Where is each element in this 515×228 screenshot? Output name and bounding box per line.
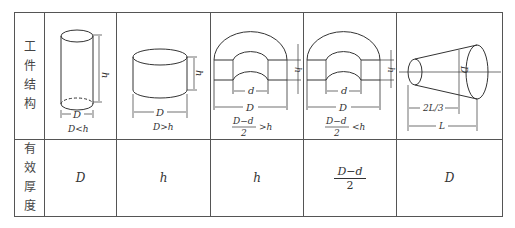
diagram-tall-cylinder: h D D<h — [45, 13, 117, 140]
thickness-value-fraction: D−d 2 — [304, 140, 397, 217]
row-header-thickness: 有 效 厚 度 — [15, 140, 45, 217]
svg-text:L: L — [438, 121, 445, 131]
truncated-cone-icon: D 2L/3 L — [398, 14, 502, 138]
diagram-truncated-cone: D 2L/3 L — [397, 13, 503, 140]
svg-text:D: D — [155, 107, 164, 118]
svg-text:h: h — [100, 72, 111, 78]
svg-text:d: d — [248, 85, 254, 96]
svg-text:h: h — [386, 67, 396, 73]
svg-text:D: D — [72, 109, 81, 120]
tall-cylinder-icon: h D D<h — [46, 14, 116, 138]
effective-thickness-table: 工 件 结 构 h D D<h — [14, 12, 503, 217]
header-char: 结 — [15, 76, 44, 95]
svg-text:D−d: D−d — [325, 116, 347, 126]
ring-section-icon: h d D D−d 2 <h — [304, 14, 396, 138]
svg-text:>h: >h — [259, 122, 272, 132]
svg-text:D: D — [338, 102, 347, 113]
header-char: 度 — [15, 197, 44, 216]
diagram-ring-lt: h d D D−d 2 <h — [304, 13, 397, 140]
svg-text:D: D — [245, 102, 254, 113]
svg-text:h: h — [194, 70, 205, 76]
svg-text:2: 2 — [240, 128, 247, 138]
svg-text:D>h: D>h — [152, 122, 174, 132]
svg-text:2: 2 — [333, 128, 340, 138]
svg-text:d: d — [341, 85, 347, 96]
fraction: D−d 2 — [334, 165, 365, 192]
header-char: 件 — [15, 57, 44, 76]
fraction-numerator: D−d — [334, 165, 365, 179]
thickness-value: D — [397, 140, 503, 217]
short-cylinder-icon: h D D>h — [118, 14, 210, 138]
header-char: 效 — [15, 159, 44, 178]
svg-text:<h: <h — [352, 122, 365, 132]
fraction-denominator: 2 — [334, 179, 365, 192]
svg-text:D: D — [459, 65, 469, 73]
svg-text:2L/3: 2L/3 — [422, 103, 444, 113]
thickness-value: h — [211, 140, 304, 217]
header-char: 有 — [15, 140, 44, 159]
header-char: 构 — [15, 95, 44, 114]
diagram-short-cylinder: h D D>h — [117, 13, 211, 140]
header-char: 厚 — [15, 178, 44, 197]
diagram-ring-gt: h d D D−d 2 >h — [211, 13, 304, 140]
header-char: 工 — [15, 38, 44, 57]
structure-row: 工 件 结 构 h D D<h — [15, 13, 503, 140]
thickness-value: D — [45, 140, 117, 217]
ring-section-icon: h d D D−d 2 >h — [211, 14, 303, 138]
row-header-structure: 工 件 结 构 — [15, 13, 45, 140]
svg-text:D−d: D−d — [232, 116, 254, 126]
thickness-row: 有 效 厚 度 D h h D−d 2 D — [15, 140, 503, 217]
thickness-value: h — [117, 140, 211, 217]
svg-text:h: h — [293, 67, 303, 73]
svg-text:D<h: D<h — [67, 124, 89, 134]
